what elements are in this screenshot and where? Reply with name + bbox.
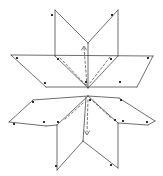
- diamond-edge-line: [57, 96, 88, 125]
- corner-dot: [32, 101, 34, 103]
- corner-dot: [114, 119, 116, 121]
- diagram-page: [0, 0, 163, 176]
- stitch-dashed-line: [93, 101, 112, 119]
- diamond-edge-line: [119, 98, 155, 121]
- corner-dot: [119, 81, 121, 83]
- corner-dot: [120, 99, 122, 101]
- diamond-edge-line: [88, 56, 118, 88]
- corner-dot: [55, 165, 57, 167]
- corner-dot: [51, 14, 53, 16]
- diamond-edge-line: [83, 141, 118, 168]
- corner-dot: [122, 120, 124, 122]
- corner-dot: [16, 57, 18, 59]
- diamond-edge-line: [9, 100, 33, 122]
- stitch-dashed-line: [90, 57, 110, 83]
- diamond-edge-line: [88, 96, 119, 98]
- stitch-dashed-line: [60, 58, 86, 85]
- corner-dot: [57, 58, 59, 60]
- diamond-edge-line: [57, 141, 83, 170]
- corner-dot: [110, 58, 112, 60]
- diamond-edge-line: [46, 125, 57, 126]
- diamond-edge-line: [11, 55, 153, 56]
- corner-dot: [44, 82, 46, 84]
- diamond-edge-line: [148, 121, 155, 125]
- corner-dot: [85, 81, 87, 83]
- corner-dot: [57, 121, 59, 123]
- eight-pointed-star-diagram: [0, 0, 163, 176]
- diamond-edge-line: [137, 56, 153, 87]
- corner-dot: [147, 57, 149, 59]
- diamond-edge-line: [88, 10, 118, 43]
- diamond-edge-line: [88, 96, 118, 123]
- stitch-dashed-line: [84, 48, 87, 86]
- diamond-edge-line: [83, 97, 86, 141]
- diamond-edge-line: [11, 55, 46, 87]
- diamond-edge-line: [118, 123, 148, 125]
- corner-dot: [13, 123, 15, 125]
- corner-dot: [89, 99, 91, 101]
- diamond-edge-line: [55, 10, 88, 43]
- stitch-dashed-line: [87, 100, 88, 132]
- corner-dot: [110, 164, 112, 166]
- corner-dot: [111, 14, 113, 16]
- corner-dot: [146, 121, 148, 123]
- diamond-edge-line: [55, 56, 88, 88]
- corner-dot: [43, 121, 45, 123]
- stitch-dashed-line: [64, 103, 83, 120]
- diamond-edge-line: [33, 96, 88, 100]
